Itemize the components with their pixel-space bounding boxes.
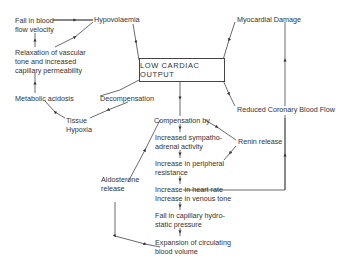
node-sympatho: Increased sympatho- adrenal activity — [155, 133, 222, 151]
node-decompensation: Decompensation — [100, 94, 154, 103]
node-heart-rate: Increase in heart rate Increase in venou… — [155, 185, 231, 203]
node-expansion: Expansion of circulating blood volume — [155, 238, 231, 256]
node-fall-blood-flow: Fall in blood flow velocity — [15, 16, 54, 34]
node-myocardial-damage: Myocardial Damage — [237, 15, 301, 24]
node-reduced-coronary: Reduced Coronary Blood Flow — [237, 105, 335, 114]
node-relaxation: Relaxation of vascular tone and increase… — [15, 48, 86, 75]
node-hypovolaemia: Hypovolaemia — [94, 15, 140, 24]
node-compensation: Compensation by — [154, 116, 210, 125]
node-peripheral: Increase in peripheral resistance — [155, 159, 224, 177]
node-aldosterone: Aldosterone release — [101, 175, 139, 193]
low-cardiac-output-box: LOW CARDIAC OUTPUT — [139, 58, 225, 82]
node-renin: Renin release — [238, 137, 282, 146]
node-capillary: Fall in capillary hydro- static pressure — [155, 211, 225, 229]
node-metabolic-acidosis: Metabolic acidosis — [15, 94, 74, 103]
node-tissue-hypoxia: Tissue Hypoxia — [66, 116, 92, 134]
center-label: LOW CARDIAC OUTPUT — [140, 61, 224, 79]
